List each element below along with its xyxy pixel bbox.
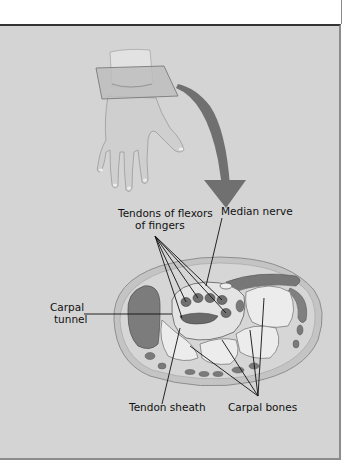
median-nerve xyxy=(220,283,232,289)
label-median-nerve: Median nerve xyxy=(221,205,293,217)
nail xyxy=(113,184,117,187)
nail xyxy=(99,169,103,172)
carpal-tunnel-space xyxy=(172,282,245,340)
label-tendons-line2: of fingers xyxy=(135,219,185,231)
curved-arrow-icon xyxy=(176,84,246,208)
thenar-muscle xyxy=(128,286,160,349)
label-carpal-tunnel-line2: tunnel xyxy=(54,313,87,325)
cutting-plane xyxy=(96,66,178,99)
label-carpal-bones: Carpal bones xyxy=(228,401,297,413)
hand-illustration xyxy=(96,49,184,191)
carpal-tunnel-illustration: Tendons of flexors of fingers Median ner… xyxy=(0,0,356,461)
label-carpal-tunnel-line1: Carpal xyxy=(50,301,84,313)
nail xyxy=(179,147,184,150)
nail xyxy=(127,187,131,190)
hand xyxy=(97,96,184,192)
label-tendons-line1: Tendons of flexors xyxy=(117,207,213,219)
nail xyxy=(143,179,147,182)
label-tendon-sheath: Tendon sheath xyxy=(128,401,206,413)
